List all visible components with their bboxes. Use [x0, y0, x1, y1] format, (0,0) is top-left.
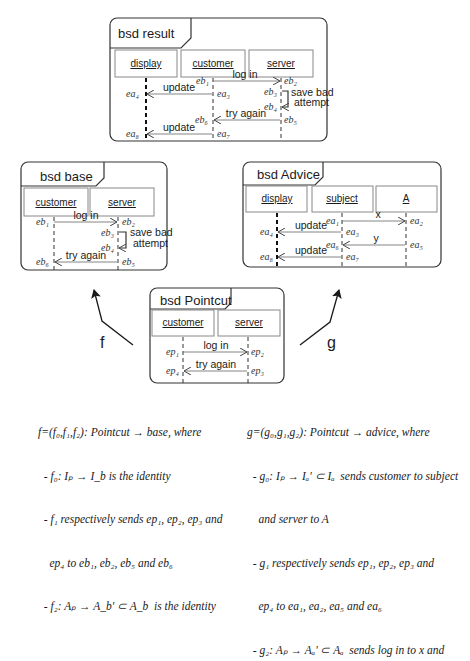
event-label: eb₆ — [195, 114, 208, 125]
message-log-in: log in — [232, 68, 257, 80]
event-label: ea₂ — [410, 215, 423, 226]
message-update: update — [163, 121, 195, 133]
lifeline-a: A — [403, 193, 410, 204]
message-update: update — [295, 219, 327, 231]
event-label: eb₄ — [264, 101, 277, 112]
message-log-in: log in — [203, 339, 228, 351]
event-label: eb₁ — [196, 75, 209, 86]
event-label: ea₈ — [260, 251, 273, 262]
event-label: eb₁ — [36, 216, 49, 227]
event-label: ea₆ — [326, 239, 339, 250]
frame-result: bsd result display customer server log i… — [110, 18, 334, 141]
frame-title: bsd result — [118, 26, 175, 41]
event-label: ea₅ — [410, 239, 423, 250]
lifeline-display: display — [130, 58, 161, 69]
arrow-f: f — [94, 290, 133, 351]
message-try-again: try again — [226, 107, 266, 119]
caption-line: f=(f₀,f₁,f₂): Pointcut → base, where — [38, 425, 223, 440]
event-label: eb₅ — [122, 256, 135, 267]
lifeline-customer: customer — [162, 317, 204, 328]
arrow-g: g — [300, 290, 339, 351]
event-label: ea₄ — [126, 88, 139, 99]
caption-line: and server to A — [247, 512, 458, 527]
message-log-in: log in — [73, 209, 98, 221]
caption-line: ep₄ to ea₁, ea₂, ea₅ and ea₆ — [247, 599, 458, 614]
message-update: update — [295, 244, 327, 256]
event-label: eb₃ — [101, 227, 114, 238]
frame-title: bsd Pointcut — [160, 293, 232, 308]
caption-line: - f₂: Aₚ → A_b' ⊂ A_b is the identity — [38, 599, 223, 614]
frame-pointcut: bsd Pointcut customer server log in try … — [150, 288, 284, 383]
event-label: ea₄ — [260, 226, 273, 237]
event-label: ea₁ — [326, 215, 339, 226]
event-label: eb₂ — [122, 216, 135, 227]
frame-base: bsd base customer server log in save bad… — [21, 162, 173, 270]
lifeline-server: server — [267, 58, 295, 69]
event-label: ea₇ — [346, 251, 359, 262]
event-label: eb₂ — [284, 75, 297, 86]
event-label: ea₇ — [217, 128, 230, 139]
frame-title: bsd base — [40, 169, 93, 184]
morphism-g-label: g — [327, 334, 336, 351]
event-label: ep₂ — [251, 346, 264, 357]
lifeline-customer: customer — [192, 58, 234, 69]
morphism-f-label: f — [100, 334, 105, 351]
caption-g: g=(g₀,g₁,g₂): Pointcut → advice, where -… — [247, 396, 458, 661]
frame-title: bsd Advice — [257, 167, 320, 182]
lifeline-customer: customer — [35, 197, 77, 208]
event-label: eb₅ — [284, 114, 297, 125]
message-try-again: try again — [196, 358, 236, 370]
caption-line: - f₁ respectively sends ep₁, ep₂, ep₃ an… — [38, 512, 223, 527]
caption-line: ep₄ to eb₁, eb₂, eb₅ and eb₆ — [38, 556, 223, 571]
lifeline-server: server — [108, 197, 136, 208]
event-label: ea₃ — [217, 88, 230, 99]
event-label: ea₈ — [126, 128, 139, 139]
message-x: x — [375, 208, 381, 220]
event-label: ep₃ — [251, 365, 264, 376]
message-y: y — [373, 232, 379, 244]
frame-advice: bsd Advice display subject A x update y … — [243, 162, 441, 267]
caption-line: - g₁ respectively sends ep₁, ep₂, ep₃ an… — [247, 556, 458, 571]
caption-line: - f₀: Iₚ → I_b is the identity — [38, 469, 223, 484]
event-label: eb₃ — [264, 86, 277, 97]
lifeline-display: display — [261, 193, 292, 204]
caption-f: f=(f₀,f₁,f₂): Pointcut → base, where - f… — [38, 396, 223, 628]
caption-line: - g₀: Iₚ → Iₐ' ⊂ Iₐ sends customer to su… — [247, 469, 458, 484]
caption-line: g=(g₀,g₁,g₂): Pointcut → advice, where — [247, 425, 458, 440]
event-label: ea₃ — [346, 226, 359, 237]
message-attempt: attempt — [294, 96, 329, 108]
lifeline-subject: subject — [326, 193, 358, 204]
message-update: update — [163, 81, 195, 93]
event-label: ep₄ — [166, 365, 179, 376]
caption-line: - g₂: Aₚ → Aₐ' ⊂ Aₐ sends log in to x an… — [247, 643, 458, 658]
event-label: ep₁ — [166, 346, 179, 357]
event-label: eb₆ — [36, 256, 49, 267]
event-label: eb₄ — [101, 242, 114, 253]
lifeline-server: server — [235, 317, 263, 328]
message-attempt: attempt — [133, 237, 168, 249]
